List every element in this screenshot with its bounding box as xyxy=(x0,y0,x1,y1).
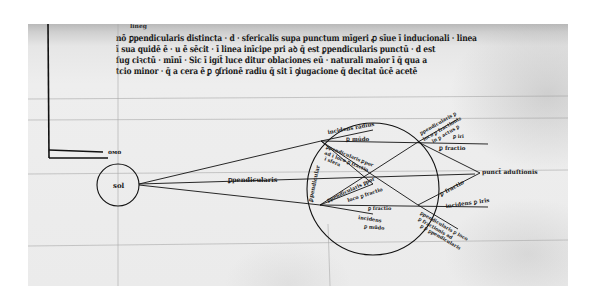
margin-bracket xyxy=(48,24,108,158)
svg-text:ꝑ iri: ꝑ iri xyxy=(452,133,464,140)
svg-text:incidens radius: incidens radius xyxy=(327,121,375,135)
focal-point-label: punct̄ aduſtionis xyxy=(482,168,538,176)
ruling-lines xyxy=(28,24,568,286)
lower-right-incidens-label: incidens ꝑ iris xyxy=(445,197,490,210)
optics-diagram: sol oᴍo ꝑpendicularis ꝑpendicular incide… xyxy=(28,24,568,286)
lower-inner-labels: ꝑ fractio incidens ꝑ mūdo xyxy=(358,205,392,232)
sun-label: sol xyxy=(113,181,125,190)
margin-label: oᴍo xyxy=(108,148,121,155)
svg-text:ꝑ mūdo: ꝑ mūdo xyxy=(363,223,386,232)
upper-left-block: ꝑpendicularis ꝑpor ad ī loco ꝑ fractio ī… xyxy=(323,143,375,173)
svg-text:ꝑ mūdo: ꝑ mūdo xyxy=(345,136,370,143)
svg-text:incidens: incidens xyxy=(358,214,382,223)
upper-right-refraction-label: ꝑ fractio xyxy=(438,145,466,152)
sphere-left-label: ꝑpendicular xyxy=(307,164,322,203)
lower-right-refraction-label: ꝑ fractio xyxy=(438,179,466,198)
upper-inner-labels: incidens radius ꝑ mūdo xyxy=(327,121,375,143)
center-ray-label: ꝑpendicularis xyxy=(227,176,278,184)
lower-right-block: ꝑpendicularis ꝑ loco ꝑ fractionis ad ꝑ ꝑ… xyxy=(416,209,469,252)
lower-left-block: ꝑpendicularis ꝑpor loco ꝑ fractio xyxy=(325,175,384,204)
svg-text:ꝑ fractio: ꝑ fractio xyxy=(367,205,392,212)
manuscript-page: lineg nō ꝑpendicularis distincta · d · s… xyxy=(28,24,568,286)
upper-right-block: ꝑpendicularis ꝑ loco ꝑ fractionis in ꝑ a… xyxy=(418,110,464,145)
